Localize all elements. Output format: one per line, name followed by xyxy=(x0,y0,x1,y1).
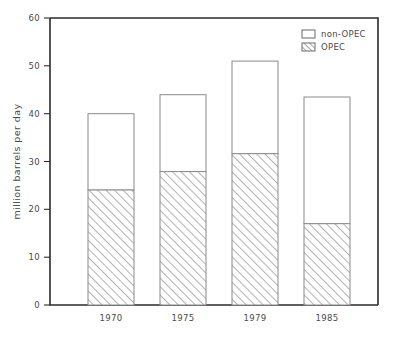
y-tick-label-10: 10 xyxy=(29,252,40,262)
bar-opec-1979 xyxy=(232,154,278,305)
bar-opec-1975 xyxy=(160,172,206,305)
y-tick-label-40: 40 xyxy=(29,109,40,119)
y-axis-ticks xyxy=(44,18,50,305)
x-tick-label-1979: 1979 xyxy=(244,313,267,323)
bar-group-1970 xyxy=(88,114,134,305)
chart-legend: non-OPEC OPEC xyxy=(302,29,366,52)
y-tick-label-50: 50 xyxy=(29,61,40,71)
y-axis-title: million barrels per day xyxy=(11,104,22,220)
bar-group-1979 xyxy=(232,61,278,305)
y-tick-label-0: 0 xyxy=(34,300,40,310)
y-tick-label-60: 60 xyxy=(29,13,40,23)
bar-nonopec-1970 xyxy=(88,114,134,190)
bar-group-1985 xyxy=(304,97,350,305)
white-box-icon xyxy=(302,30,315,38)
legend-label-non-opec: non-OPEC xyxy=(321,29,366,39)
bar-nonopec-1975 xyxy=(160,95,206,172)
stacked-bar-chart: 60 50 40 30 20 10 0 million barrels per … xyxy=(0,0,407,341)
bar-opec-1970 xyxy=(88,190,134,305)
y-tick-label-20: 20 xyxy=(29,204,40,214)
y-axis-tick-labels: 60 50 40 30 20 10 0 xyxy=(29,13,40,310)
bar-opec-1985 xyxy=(304,224,350,305)
x-axis-tick-labels: 1970 1975 1979 1985 xyxy=(100,313,339,323)
y-tick-label-30: 30 xyxy=(29,157,40,167)
hatched-box-icon xyxy=(302,43,315,51)
bar-group-1975 xyxy=(160,95,206,305)
chart-canvas: 60 50 40 30 20 10 0 million barrels per … xyxy=(0,0,407,341)
x-tick-label-1985: 1985 xyxy=(316,313,339,323)
x-tick-label-1975: 1975 xyxy=(172,313,195,323)
x-tick-label-1970: 1970 xyxy=(100,313,123,323)
bar-nonopec-1979 xyxy=(232,61,278,154)
bar-nonopec-1985 xyxy=(304,97,350,224)
legend-label-opec: OPEC xyxy=(321,42,345,52)
